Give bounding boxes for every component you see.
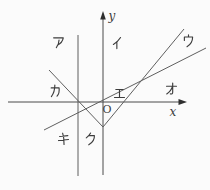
region-label-ku [84,132,97,145]
diagram-canvas [0,0,210,190]
y-axis-label: y [109,10,116,22]
v-graph-left-branch [49,70,103,127]
math-diagram: y x O [0,0,210,190]
x-axis-arrowhead [179,99,188,105]
x-axis-label: x [170,106,177,118]
origin-label: O [102,104,111,116]
region-label-a [52,35,65,48]
region-label-u [182,34,195,47]
region-label-ki [57,132,70,145]
y-axis-arrowhead [100,11,106,20]
region-label-i [111,36,124,49]
region-label-ka [49,84,62,97]
region-label-o [165,82,178,95]
region-label-e [113,87,126,100]
